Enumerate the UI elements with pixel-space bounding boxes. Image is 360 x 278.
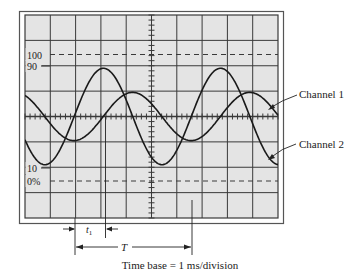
channel-1-label: Channel 1 <box>299 88 344 100</box>
time-base-caption: Time base = 1 ms/division <box>122 259 239 271</box>
t1-left-arrow <box>69 227 75 232</box>
label-0-percent: 0% <box>27 176 40 187</box>
period-left-arrow <box>76 245 83 250</box>
oscilloscope-figure: 100 90 10 0% Channel 1 Channel 2 t1 T Ti… <box>0 0 360 278</box>
channel-2-label: Channel 2 <box>299 138 344 150</box>
t1-right-arrow <box>106 227 112 232</box>
t1-label: t1 <box>86 224 93 237</box>
period-label: T <box>121 241 128 253</box>
label-100: 100 <box>27 50 42 61</box>
label-10: 10 <box>27 163 37 174</box>
period-right-arrow <box>184 245 191 250</box>
label-90: 90 <box>27 61 37 72</box>
